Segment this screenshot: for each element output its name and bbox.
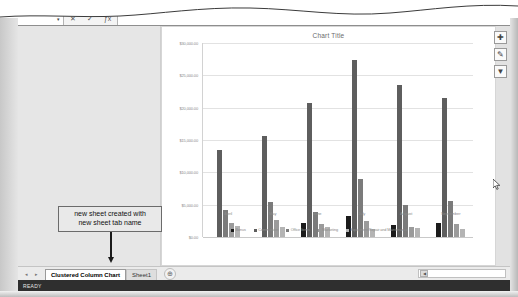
bar-cluster[interactable] [301, 43, 330, 237]
chart-title[interactable]: Chart Title [162, 32, 495, 39]
x-axis-tick-label: August [386, 211, 426, 216]
plot-area [202, 43, 473, 237]
sheet-tab-bar: ◂ ▸ Clustered Column ChartSheet1 ⊕ ◀ [18, 266, 510, 280]
formula-input[interactable] [118, 12, 510, 25]
x-axis-tick-label: July [342, 211, 382, 216]
page-shade-left [0, 18, 20, 297]
legend-swatch-icon [286, 229, 289, 232]
sheet-nav-buttons: ◂ ▸ [18, 271, 45, 277]
annotation-arrow-icon [110, 232, 112, 258]
x-axis: AprilMayJuneJulyAugustSeptember [206, 211, 473, 221]
scroll-left-icon[interactable]: ◀ [420, 270, 428, 277]
legend-swatch-icon [318, 229, 321, 232]
legend-swatch-icon [346, 229, 349, 232]
mouse-cursor-icon [493, 176, 501, 194]
annotation-line-1: new sheet created with [74, 210, 146, 219]
bar-cluster[interactable] [256, 43, 285, 237]
y-axis-tick-label: $10,000.00 [179, 170, 198, 175]
bar-cluster[interactable] [391, 43, 420, 237]
chart-side-buttons: ✚✎▼ [494, 31, 507, 78]
chevron-down-icon[interactable]: ▾ [57, 16, 60, 22]
chart-styles-button[interactable]: ✎ [494, 48, 507, 61]
legend-item[interactable]: Equipment Repair and Maintenance [346, 228, 408, 232]
sheet-tab-sheet1[interactable]: Sheet1 [126, 269, 157, 281]
legend-item[interactable]: Marketing [318, 228, 338, 232]
legend-label: Office Items [291, 228, 310, 232]
chart-elements-button[interactable]: ✚ [494, 31, 507, 44]
bar-cluster[interactable] [211, 43, 240, 237]
chart-plot-wrapper: $30,000.00$25,000.00$20,000.00$15,000.00… [166, 43, 473, 237]
legend-label: Bonus [236, 228, 246, 232]
insert-function-icon[interactable]: ƒx [104, 15, 111, 22]
status-text: READY [18, 283, 42, 289]
legend-swatch-icon [231, 229, 234, 232]
bar[interactable] [262, 136, 267, 237]
bar-cluster[interactable] [436, 43, 465, 237]
chart-filters-button[interactable]: ▼ [494, 65, 507, 78]
annotation-line-2: new sheet tab name [78, 219, 141, 228]
gridline [203, 237, 473, 238]
sheet-tab-clustered-column-chart[interactable]: Clustered Column Chart [45, 269, 126, 281]
page-shade-bottom [0, 291, 518, 297]
bar[interactable] [217, 150, 222, 237]
add-sheet-button[interactable]: ⊕ [164, 268, 176, 280]
legend-label: Commission [258, 228, 278, 232]
x-axis-tick-label: September [431, 211, 471, 216]
legend-label: Marketing [322, 228, 338, 232]
legend-label: Equipment Repair and Maintenance [351, 228, 408, 232]
formula-bar: ▾ ✕ ✓ ƒx [18, 12, 510, 26]
screenshot-root: ▾ ✕ ✓ ƒx Chart Title $30,000.00$25,000.0… [0, 0, 518, 297]
bars-layer [203, 43, 473, 237]
y-axis-tick-label: $30,000.00 [179, 41, 198, 46]
sheet-next-icon[interactable]: ▸ [35, 271, 38, 277]
x-axis-tick-label: May [253, 211, 293, 216]
chart-legend: BonusCommissionOffice ItemsMarketingEqui… [166, 225, 473, 235]
y-axis-tick-label: $25,000.00 [179, 73, 198, 78]
name-box[interactable]: ▾ [18, 12, 64, 25]
y-axis: $30,000.00$25,000.00$20,000.00$15,000.00… [166, 43, 200, 237]
cancel-icon[interactable]: ✕ [70, 15, 76, 22]
legend-item[interactable]: Commission [254, 228, 278, 232]
legend-item[interactable]: Bonus [231, 228, 246, 232]
y-axis-tick-label: $0.00 [189, 235, 198, 240]
formula-bar-buttons: ✕ ✓ ƒx [64, 12, 118, 25]
x-axis-tick-label: April [208, 211, 248, 216]
annotation-callout: new sheet created with new sheet tab nam… [58, 206, 162, 232]
sheet-tabs: Clustered Column ChartSheet1 [45, 267, 157, 281]
y-axis-tick-label: $5,000.00 [182, 202, 198, 207]
bar-cluster[interactable] [346, 43, 375, 237]
enter-icon[interactable]: ✓ [87, 15, 93, 22]
legend-item[interactable]: Office Items [286, 228, 310, 232]
sheet-prev-icon[interactable]: ◂ [25, 271, 28, 277]
y-axis-tick-label: $20,000.00 [179, 105, 198, 110]
y-axis-tick-label: $15,000.00 [179, 138, 198, 143]
x-axis-tick-label: June [297, 211, 337, 216]
horizontal-scrollbar[interactable]: ◀ [418, 269, 506, 278]
legend-swatch-icon [254, 229, 257, 232]
chart-object[interactable]: Chart Title $30,000.00$25,000.00$20,000.… [161, 26, 496, 266]
